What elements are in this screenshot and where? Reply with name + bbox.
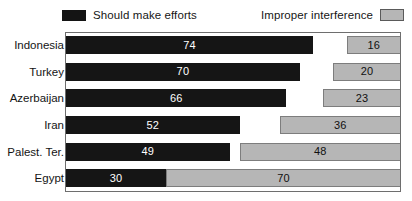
bar-segment-improper-interference: 23 [323,89,400,107]
bar-value-improper-interference: 16 [367,40,380,51]
chart-row: Iran5236 [0,112,412,139]
bar-value-should-make-efforts: 49 [142,146,155,157]
category-label-palest-ter: Palest. Ter. [7,139,64,166]
bar-segment-improper-interference: 20 [333,63,400,81]
legend-label-improper-interference: Improper interference [261,9,373,21]
legend-label-should-make-efforts: Should make efforts [93,9,197,21]
bar-track: 3070 [66,169,400,187]
bar-value-should-make-efforts: 66 [170,93,183,104]
bar-track: 6623 [66,89,400,107]
bar-segment-should-make-efforts: 52 [66,116,240,134]
bar-segment-should-make-efforts: 66 [66,89,286,107]
bar-track: 7416 [66,36,400,54]
bar-value-improper-interference: 70 [277,173,290,184]
bar-value-improper-interference: 48 [314,146,327,157]
legend-item-should-make-efforts: Should make efforts [62,7,197,23]
gray-swatch-icon [380,9,404,21]
bar-value-should-make-efforts: 30 [110,173,123,184]
bar-track: 7020 [66,63,400,81]
bar-segment-improper-interference: 36 [280,116,400,134]
category-label-turkey: Turkey [29,59,64,86]
bar-segment-should-make-efforts: 30 [66,169,166,187]
bar-segment-improper-interference: 70 [166,169,400,187]
legend-item-improper-interference: Improper interference [261,7,404,23]
bar-value-should-make-efforts: 74 [183,40,196,51]
bar-value-improper-interference: 23 [356,93,369,104]
dark-swatch-icon [62,10,86,21]
bar-value-should-make-efforts: 70 [177,66,190,77]
bar-segment-should-make-efforts: 70 [66,63,300,81]
bar-segment-should-make-efforts: 74 [66,36,313,54]
bar-segment-improper-interference: 48 [240,143,400,161]
category-label-iran: Iran [44,112,64,139]
bar-segment-should-make-efforts: 49 [66,143,230,161]
bar-track: 4948 [66,143,400,161]
category-label-egypt: Egypt [35,165,64,192]
bar-segment-improper-interference: 16 [347,36,400,54]
bar-value-improper-interference: 20 [361,66,374,77]
chart-row: Azerbaijan6623 [0,85,412,112]
chart-legend: Should make efforts Improper interferenc… [0,6,412,26]
bar-value-should-make-efforts: 52 [147,120,160,131]
chart-row: Palest. Ter.4948 [0,139,412,166]
bar-value-improper-interference: 36 [334,120,347,131]
stacked-bar-chart: Should make efforts Improper interferenc… [0,0,412,201]
category-label-indonesia: Indonesia [14,32,64,59]
chart-rows: Indonesia7416Turkey7020Azerbaijan6623Ira… [0,32,412,192]
chart-row: Turkey7020 [0,59,412,86]
category-label-azerbaijan: Azerbaijan [10,85,64,112]
chart-row: Indonesia7416 [0,32,412,59]
chart-row: Egypt3070 [0,165,412,192]
bar-track: 5236 [66,116,400,134]
